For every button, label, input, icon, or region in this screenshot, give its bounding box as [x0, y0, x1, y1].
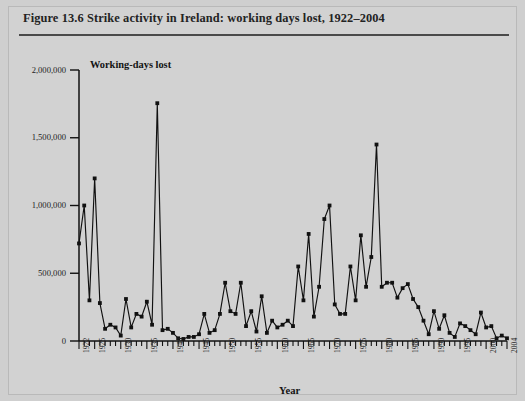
- data-point: [82, 204, 86, 208]
- data-point: [474, 332, 478, 336]
- data-point: [469, 328, 473, 332]
- data-point: [422, 319, 426, 323]
- data-point: [364, 285, 368, 289]
- data-point: [302, 298, 306, 302]
- data-point: [432, 309, 436, 313]
- x-tick-label: 2000: [489, 338, 498, 353]
- figure-title: Figure 13.6 Strike activity in Ireland: …: [23, 11, 385, 26]
- data-point: [239, 281, 243, 285]
- data-point: [312, 315, 316, 319]
- data-point: [98, 301, 102, 305]
- data-point: [369, 255, 373, 259]
- x-tick-label: 1922: [82, 338, 91, 353]
- data-point: [166, 327, 170, 331]
- chart-axes: [79, 70, 507, 341]
- data-point: [228, 309, 232, 313]
- data-point: [244, 324, 248, 328]
- data-point: [124, 297, 128, 301]
- data-point: [88, 298, 92, 302]
- chart-plot-area: Working-days lost Year 2,000,0001,500,00…: [9, 37, 518, 395]
- y-tick-label: 1,000,000: [11, 200, 66, 210]
- x-tick-label: 1935: [150, 338, 159, 353]
- data-point: [453, 335, 457, 339]
- data-point: [145, 300, 149, 304]
- data-line: [79, 103, 507, 339]
- data-point: [249, 309, 253, 313]
- data-point: [140, 315, 144, 319]
- data-point: [223, 281, 227, 285]
- data-point-markers: [77, 101, 509, 341]
- x-tick-label: 1970: [333, 338, 342, 353]
- data-point: [135, 312, 139, 316]
- data-point: [437, 327, 441, 331]
- data-point: [354, 298, 358, 302]
- data-point: [197, 332, 201, 336]
- y-tick-label: 1,500,000: [11, 132, 66, 142]
- x-tick-label: 1930: [124, 338, 133, 353]
- data-point: [427, 332, 431, 336]
- data-point: [395, 296, 399, 300]
- data-point: [77, 242, 81, 246]
- data-point: [171, 331, 175, 335]
- x-axis-title: Year: [279, 385, 300, 396]
- data-point: [442, 313, 446, 317]
- data-point: [187, 335, 191, 339]
- title-divider: [19, 34, 509, 36]
- data-point: [500, 334, 504, 338]
- x-tick-label: 1975: [359, 338, 368, 353]
- data-point: [349, 265, 353, 269]
- figure-frame: Figure 13.6 Strike activity in Ireland: …: [8, 6, 517, 395]
- data-point: [359, 233, 363, 237]
- y-tick-label: 0: [11, 336, 66, 346]
- x-tick-label: 1995: [463, 338, 472, 353]
- data-point: [255, 330, 259, 334]
- data-point: [93, 177, 97, 181]
- data-point: [218, 312, 222, 316]
- data-point: [328, 204, 332, 208]
- data-point: [385, 281, 389, 285]
- figure-title-bar: Figure 13.6 Strike activity in Ireland: …: [9, 7, 518, 37]
- data-point: [416, 305, 420, 309]
- data-point: [333, 303, 337, 307]
- x-tick-label: 1950: [228, 338, 237, 353]
- x-tick-label: 1925: [98, 338, 107, 353]
- figure-page: Figure 13.6 Strike activity in Ireland: …: [0, 0, 525, 401]
- data-point: [234, 312, 238, 316]
- data-point: [192, 335, 196, 339]
- data-point: [161, 328, 165, 332]
- series-label: Working-days lost: [90, 59, 171, 70]
- data-point: [129, 326, 133, 330]
- data-point: [375, 143, 379, 147]
- data-point: [265, 331, 269, 335]
- x-tick-label: 1990: [437, 338, 446, 353]
- data-point: [281, 323, 285, 327]
- y-tick-label: 500,000: [11, 268, 66, 278]
- data-point: [150, 323, 154, 327]
- data-point: [260, 294, 264, 298]
- data-point: [343, 312, 347, 316]
- x-tick-label: 1940: [176, 338, 185, 353]
- data-point: [448, 331, 452, 335]
- x-tick-label: 1965: [307, 338, 316, 353]
- data-point: [119, 334, 123, 338]
- data-point: [103, 327, 107, 331]
- y-tick-label: 2,000,000: [11, 65, 66, 75]
- data-point: [108, 323, 112, 327]
- data-point: [114, 326, 118, 330]
- data-point: [213, 328, 217, 332]
- data-point: [286, 319, 290, 323]
- data-point: [291, 324, 295, 328]
- data-point: [484, 326, 488, 330]
- data-point: [208, 331, 212, 335]
- x-tick-label: 1980: [385, 338, 394, 353]
- x-tick-label: 1960: [281, 338, 290, 353]
- data-point: [505, 336, 509, 340]
- data-point: [411, 297, 415, 301]
- data-point: [380, 285, 384, 289]
- x-tick-label: 1955: [254, 338, 263, 353]
- data-point: [270, 319, 274, 323]
- x-tick-label: 1945: [202, 338, 211, 353]
- data-point: [463, 324, 467, 328]
- data-point: [406, 282, 410, 286]
- data-point: [458, 321, 462, 325]
